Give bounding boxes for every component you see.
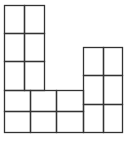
grid-cell: [104, 48, 123, 76]
grid-cell: [25, 34, 45, 62]
grid-cell: [5, 91, 31, 112]
grid-figure: [0, 0, 131, 145]
grid-cell: [5, 62, 25, 91]
grid-cell: [84, 76, 104, 105]
grid-cell: [104, 105, 123, 133]
grid-cell: [57, 112, 84, 133]
grid-cell: [57, 91, 84, 112]
grid-cell: [25, 6, 45, 34]
grid-cell: [84, 48, 104, 76]
grid-cell: [104, 76, 123, 105]
grid-cell: [31, 91, 57, 112]
grid-cell: [84, 105, 104, 133]
grid-cell: [5, 34, 25, 62]
grid-cell: [31, 112, 57, 133]
grid-cell: [5, 112, 31, 133]
grid-cell: [25, 62, 45, 91]
grid-cell: [5, 6, 25, 34]
